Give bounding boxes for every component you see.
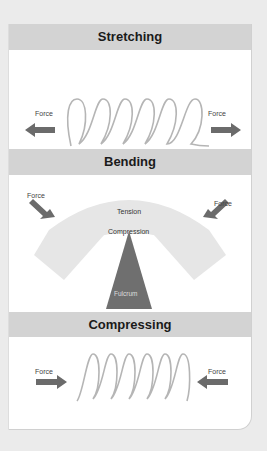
- bending-left-force-label: Force: [27, 192, 45, 199]
- compression-label: Compression: [108, 228, 149, 235]
- bending-right-force-label: Force: [214, 200, 232, 207]
- bending-header: Bending: [9, 149, 251, 175]
- stretching-spring-icon: [9, 74, 251, 154]
- forces-diagram-panel: Stretching Force Force Bending Force For…: [8, 24, 252, 430]
- fulcrum-label: Fulcrum: [114, 290, 137, 297]
- compressing-spring-icon: [9, 339, 251, 419]
- tension-label: Tension: [117, 208, 141, 215]
- compressing-header: Compressing: [9, 312, 251, 337]
- stretching-header: Stretching: [9, 24, 251, 50]
